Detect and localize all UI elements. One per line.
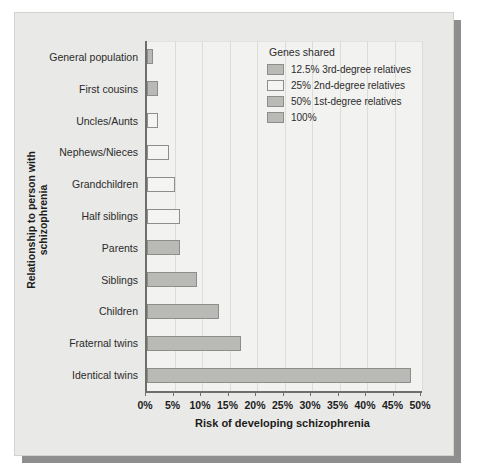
- x-tick-mark-10: [200, 391, 201, 396]
- bar-fraternal-twins: [147, 336, 241, 351]
- x-tick-label-25: 25%: [272, 399, 293, 411]
- x-tick-mark-15: [228, 391, 229, 396]
- legend-swatch-g25: [267, 80, 284, 91]
- legend-title: Genes shared: [269, 46, 447, 58]
- x-tick-label-0: 0%: [137, 399, 152, 411]
- legend-label-g125: 12.5% 3rd-degree relatives: [291, 64, 411, 75]
- legend-item-g100: 100%: [267, 112, 447, 123]
- legend-swatch-g100: [267, 112, 284, 123]
- bar-parents: [147, 240, 180, 255]
- x-tick-mark-35: [338, 391, 339, 396]
- bar-row: [147, 143, 422, 161]
- x-axis-title: Risk of developing schizophrenia: [145, 417, 420, 429]
- x-tick-mark-0: [145, 391, 146, 396]
- legend-label-g100: 100%: [291, 112, 317, 123]
- x-tick-label-45: 45%: [382, 399, 403, 411]
- bar-nephews-nieces: [147, 145, 169, 160]
- y-axis-label-half-siblings: Half siblings: [81, 210, 138, 222]
- bar-half-siblings: [147, 209, 180, 224]
- bar-row: [147, 366, 422, 384]
- x-tick-mark-45: [393, 391, 394, 396]
- x-tick-label-20: 20%: [244, 399, 265, 411]
- legend-item-g125: 12.5% 3rd-degree relatives: [267, 64, 447, 75]
- bar-identical-twins: [147, 368, 411, 383]
- x-tick-mark-40: [365, 391, 366, 396]
- y-axis-labels: General populationFirst cousinsUncles/Au…: [39, 41, 142, 391]
- bar-row: [147, 302, 422, 320]
- legend-label-g25: 25% 2nd-degree relatives: [291, 80, 405, 91]
- y-axis-label-fraternal-twins: Fraternal twins: [69, 337, 138, 349]
- y-axis-label-identical-twins: Identical twins: [72, 369, 138, 381]
- bar-children: [147, 304, 219, 319]
- legend-swatch-g125: [267, 64, 284, 75]
- y-axis-label-uncles-aunts: Uncles/Aunts: [76, 115, 138, 127]
- chart-panel: Relationship to person with schizophreni…: [14, 12, 454, 456]
- x-tick-label-15: 15%: [217, 399, 238, 411]
- bar-first-cousins: [147, 81, 158, 96]
- x-tick-mark-25: [283, 391, 284, 396]
- figure-root: Relationship to person with schizophreni…: [0, 0, 480, 475]
- y-axis-label-nephews-nieces: Nephews/Nieces: [59, 146, 138, 158]
- bar-uncles-aunts: [147, 113, 158, 128]
- x-tick-mark-20: [255, 391, 256, 396]
- y-axis-label-general-population: General population: [49, 51, 138, 63]
- legend-items: 12.5% 3rd-degree relatives25% 2nd-degree…: [267, 64, 447, 123]
- x-tick-mark-5: [173, 391, 174, 396]
- bar-row: [147, 239, 422, 257]
- bar-general-population: [147, 49, 153, 64]
- legend: Genes shared 12.5% 3rd-degree relatives2…: [267, 46, 447, 128]
- x-tick-label-40: 40%: [354, 399, 375, 411]
- bar-grandchildren: [147, 177, 175, 192]
- legend-label-g50: 50% 1st-degree relatives: [291, 96, 402, 107]
- legend-item-g25: 25% 2nd-degree relatives: [267, 80, 447, 91]
- x-tick-mark-30: [310, 391, 311, 396]
- x-tick-label-10: 10%: [189, 399, 210, 411]
- bar-row: [147, 271, 422, 289]
- y-axis-label-first-cousins: First cousins: [79, 83, 138, 95]
- bar-siblings: [147, 272, 197, 287]
- x-tick-label-30: 30%: [299, 399, 320, 411]
- x-tick-label-5: 5%: [165, 399, 180, 411]
- bar-row: [147, 175, 422, 193]
- bar-row: [147, 207, 422, 225]
- y-axis-label-parents: Parents: [102, 242, 138, 254]
- y-axis-label-siblings: Siblings: [101, 274, 138, 286]
- bar-row: [147, 334, 422, 352]
- legend-swatch-g50: [267, 96, 284, 107]
- x-tick-mark-50: [420, 391, 421, 396]
- legend-item-g50: 50% 1st-degree relatives: [267, 96, 447, 107]
- x-tick-label-50: 50%: [409, 399, 430, 411]
- y-axis-label-children: Children: [99, 305, 138, 317]
- x-tick-label-35: 35%: [327, 399, 348, 411]
- y-axis-label-grandchildren: Grandchildren: [72, 178, 138, 190]
